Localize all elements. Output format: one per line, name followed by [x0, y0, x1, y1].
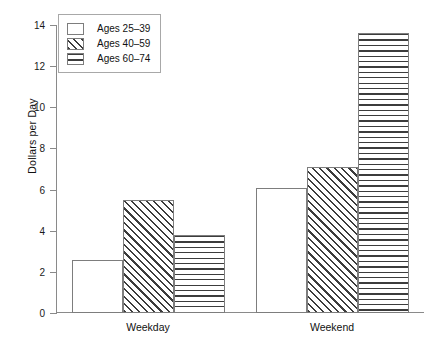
- y-axis-tick: 12: [50, 66, 56, 67]
- bar: [174, 235, 225, 313]
- x-axis-category-label: Weekday: [126, 321, 170, 333]
- y-axis-tick: 2: [50, 272, 56, 273]
- x-axis-category-label: Weekend: [310, 321, 354, 333]
- y-axis-tick: 0: [50, 313, 56, 314]
- bar: [307, 167, 358, 313]
- y-axis-tick: 14: [50, 25, 56, 26]
- y-axis-tick-label: 14: [34, 20, 45, 31]
- bar-chart: Dollars per Day 02468101214 WeekdayWeeke…: [0, 0, 431, 346]
- legend-item: Ages 60–74: [67, 51, 150, 66]
- y-axis-tick-label: 8: [39, 143, 45, 154]
- y-axis-tick: 10: [50, 107, 56, 108]
- legend-item-label: Ages 60–74: [97, 53, 150, 64]
- y-axis-tick-label: 6: [39, 184, 45, 195]
- y-axis-tick-label: 2: [39, 266, 45, 277]
- y-axis-tick: 4: [50, 231, 56, 232]
- y-axis-tick: 6: [50, 190, 56, 191]
- legend-item-label: Ages 25–39: [97, 23, 150, 34]
- legend: Ages 25–39Ages 40–59Ages 60–74: [58, 14, 161, 73]
- legend-swatch-icon: [67, 38, 84, 50]
- y-axis-tick-label: 4: [39, 225, 45, 236]
- legend-swatch-icon: [67, 23, 84, 35]
- y-axis-tick-label: 10: [34, 102, 45, 113]
- legend-item: Ages 25–39: [67, 21, 150, 36]
- y-axis-tick: 8: [50, 148, 56, 149]
- bar: [123, 200, 174, 313]
- bar: [358, 33, 409, 313]
- bar: [256, 188, 307, 313]
- legend-item: Ages 40–59: [67, 36, 150, 51]
- legend-swatch-icon: [67, 53, 84, 65]
- bar: [72, 260, 123, 313]
- y-axis-title: Dollars per Day: [26, 56, 38, 216]
- y-axis-line: [56, 25, 57, 314]
- y-axis-tick-label: 0: [39, 308, 45, 319]
- legend-item-label: Ages 40–59: [97, 38, 150, 49]
- y-axis-tick-label: 12: [34, 61, 45, 72]
